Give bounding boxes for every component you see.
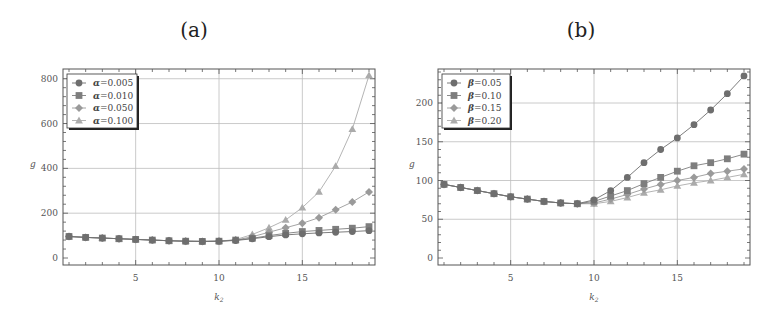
marker-triangle (365, 71, 373, 78)
marker-diamond (365, 188, 373, 196)
marker-diamond (315, 214, 323, 222)
legend-symbol: β (467, 78, 474, 88)
x-tick-label: 5 (508, 273, 514, 283)
legend-symbol: β (467, 116, 474, 126)
chart-a: 510150200400600800k2gα=0.005α=0.010α=0.0… (0, 0, 388, 310)
legend-value: =0.20 (474, 116, 502, 126)
marker-circle (166, 237, 173, 244)
marker-diamond (298, 219, 306, 227)
chart-b: 51015050100150200k2gβ=0.05β=0.10β=0.15β=… (387, 0, 775, 310)
marker-circle (216, 238, 223, 245)
marker-square (674, 168, 681, 175)
x-axis-label-subscript: 2 (594, 296, 599, 303)
marker-circle (332, 229, 339, 236)
marker-circle (674, 134, 681, 141)
marker-circle (299, 230, 306, 237)
legend-value: =0.010 (100, 91, 134, 101)
x-axis-label-subscript: 2 (219, 296, 224, 303)
marker-square (741, 151, 748, 158)
legend-symbol: α (93, 116, 100, 126)
legend-value: =0.15 (474, 103, 502, 113)
marker-square (707, 159, 714, 166)
marker-circle (99, 235, 106, 242)
marker-circle (624, 174, 631, 181)
marker-circle (724, 90, 731, 97)
x-tick-label: 10 (213, 273, 225, 283)
legend-entry-label: α=0.010 (93, 91, 134, 101)
x-tick-label: 15 (297, 273, 309, 283)
legend-value: =0.100 (100, 116, 134, 126)
marker-circle (507, 193, 514, 200)
y-tick-label: 200 (41, 208, 58, 218)
legend-value: =0.050 (100, 103, 134, 113)
marker-circle (182, 238, 189, 245)
marker-square (451, 92, 458, 99)
marker-circle (349, 228, 356, 235)
marker-circle (199, 238, 206, 245)
x-axis-label: k2 (214, 292, 223, 303)
marker-circle (607, 187, 614, 194)
y-tick-label: 400 (41, 163, 58, 173)
y-tick-label: 100 (416, 176, 433, 186)
legend-symbol: α (93, 103, 100, 113)
marker-circle (474, 187, 481, 194)
marker-square (724, 155, 731, 162)
y-tick-label: 600 (41, 119, 58, 129)
x-axis-label: k2 (589, 292, 598, 303)
marker-triangle (332, 162, 340, 169)
marker-circle (116, 235, 123, 242)
legend-symbol: β (467, 91, 474, 101)
marker-circle (232, 237, 239, 244)
marker-square (691, 162, 698, 169)
marker-circle (451, 80, 458, 87)
marker-triangle (315, 188, 323, 195)
y-tick-label: 50 (422, 214, 434, 224)
marker-triangle (348, 125, 356, 132)
panel-b: (b) 51015050100150200k2gβ=0.05β=0.10β=0.… (387, 0, 775, 310)
legend-entry-label: β=0.10 (467, 91, 502, 101)
legend-entry-label: β=0.05 (467, 78, 502, 88)
marker-circle (524, 196, 531, 203)
y-axis-label: g (30, 159, 36, 169)
marker-diamond (723, 167, 731, 175)
legend-symbol: β (467, 103, 474, 113)
y-tick-label: 800 (41, 74, 58, 84)
marker-circle (691, 121, 698, 128)
y-tick-label: 200 (416, 98, 433, 108)
marker-circle (574, 200, 581, 207)
legend-entry-label: β=0.20 (467, 116, 502, 126)
panel-a: (a) 510150200400600800k2gα=0.005α=0.010α… (0, 0, 388, 310)
legend-value: =0.10 (474, 91, 502, 101)
marker-circle (741, 72, 748, 79)
x-tick-label: 15 (672, 273, 684, 283)
marker-circle (149, 237, 156, 244)
marker-square (641, 180, 648, 187)
x-tick-label: 5 (133, 273, 139, 283)
legend-entry-label: α=0.005 (93, 78, 134, 88)
x-tick-label: 10 (588, 273, 600, 283)
marker-square (76, 92, 83, 99)
marker-circle (591, 196, 598, 203)
legend-entry-label: α=0.050 (93, 103, 134, 113)
marker-diamond (673, 177, 681, 185)
marker-diamond (657, 180, 665, 188)
legend-entry-label: α=0.100 (93, 116, 134, 126)
legend-symbol: α (93, 91, 100, 101)
marker-square (657, 174, 664, 181)
marker-circle (132, 236, 139, 243)
marker-circle (82, 234, 89, 241)
marker-circle (707, 107, 714, 114)
marker-diamond (740, 165, 748, 173)
marker-diamond (707, 170, 715, 178)
marker-diamond (332, 206, 340, 214)
marker-circle (76, 80, 83, 87)
marker-circle (366, 227, 373, 234)
marker-triangle (282, 216, 290, 223)
marker-circle (541, 198, 548, 205)
marker-circle (316, 230, 323, 237)
marker-circle (66, 233, 73, 240)
y-tick-label: 150 (416, 137, 433, 147)
marker-circle (657, 146, 664, 153)
legend-value: =0.005 (100, 78, 134, 88)
marker-circle (249, 235, 256, 242)
